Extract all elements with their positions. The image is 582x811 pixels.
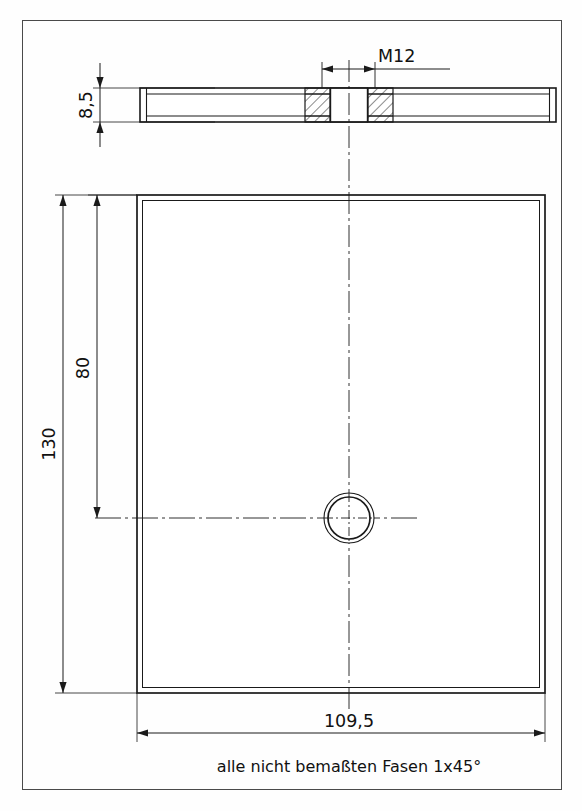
dimension-1095: 109,5 [137,693,545,742]
section-hatch-left [305,88,330,122]
dimension-1095-label: 109,5 [324,711,374,731]
general-note: alle nicht bemaßten Fasen 1x45° [217,757,481,776]
technical-drawing-canvas: M12 8,5 80 130 [0,0,582,811]
dimension-130-label: 130 [39,427,59,460]
plate-outline [137,195,545,693]
section-hatch-right [368,88,393,122]
dimension-thickness-label: 8,5 [76,91,96,119]
dimension-80-label: 80 [73,357,93,379]
thread-hole-plan [324,493,374,543]
dimension-m12-label: M12 [378,46,415,66]
dimension-130: 130 [39,195,137,693]
side-view: M12 [140,46,556,122]
dimension-80: 80 [73,195,137,518]
drawing-sheet: M12 8,5 80 130 [0,0,582,811]
front-view [137,195,545,693]
